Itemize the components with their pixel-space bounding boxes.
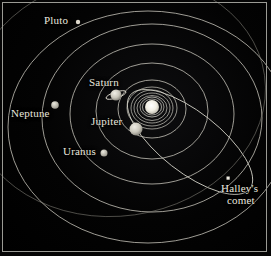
label-uranus: Uranus (63, 146, 96, 158)
saturn-body-group (105, 89, 127, 101)
label-halley-comet-line1: Halley's (221, 183, 258, 195)
solar-system-figure: Pluto Neptune Uranus Saturn Jupiter Hall… (0, 0, 271, 256)
label-pluto: Pluto (44, 15, 68, 27)
jupiter-body (130, 123, 143, 136)
saturn-body (111, 90, 122, 101)
neptune-body (51, 101, 59, 109)
halley-comet-body (227, 177, 230, 180)
label-jupiter: Jupiter (91, 116, 122, 128)
label-halley-comet-line2: comet (227, 195, 255, 207)
orbit-diagram (0, 0, 271, 256)
label-saturn: Saturn (89, 77, 119, 89)
pluto-body (76, 20, 80, 24)
uranus-body (101, 150, 108, 157)
sun-body (145, 100, 159, 114)
label-neptune: Neptune (11, 108, 50, 120)
